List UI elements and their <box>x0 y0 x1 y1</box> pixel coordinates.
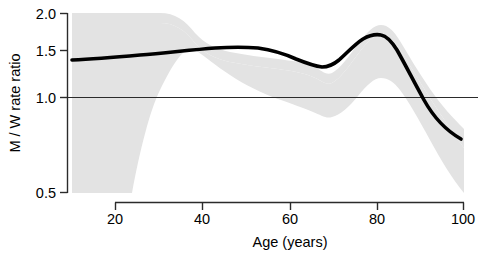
y-tick-label-1-0: 1.0 <box>36 90 56 106</box>
y-tick-label-2-0: 2.0 <box>36 6 56 22</box>
y-tick-label-0-5: 0.5 <box>36 185 56 201</box>
y-axis-title: M / W rate ratio <box>7 53 23 152</box>
x-tick-label-80: 80 <box>369 211 385 227</box>
y-tick-label-1-5: 1.5 <box>36 43 56 59</box>
x-tick-label-40: 40 <box>194 211 210 227</box>
chart-figure: 2.0 1.5 1.0 0.5 M / W rate ratio 20 40 6… <box>0 0 491 255</box>
x-axis-title: Age (years) <box>253 234 328 250</box>
x-tick-label-20: 20 <box>107 211 123 227</box>
rate-ratio-chart: 2.0 1.5 1.0 0.5 M / W rate ratio 20 40 6… <box>0 0 491 255</box>
x-tick-label-60: 60 <box>282 211 298 227</box>
x-tick-label-100: 100 <box>451 211 475 227</box>
